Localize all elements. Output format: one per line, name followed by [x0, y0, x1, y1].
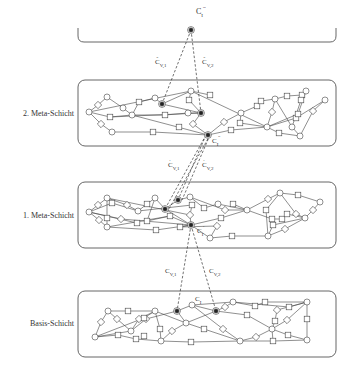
meta2-edge — [162, 104, 201, 113]
meta2-hub-node — [160, 102, 164, 106]
graph-node-diamond — [268, 108, 275, 115]
basis-hub-node — [175, 309, 179, 313]
link-label-basis-v2: CV,2 — [209, 267, 221, 278]
graph-node-square — [104, 215, 110, 221]
graph-node-square — [286, 304, 292, 310]
graph-node-square — [201, 326, 207, 332]
meta1-edge — [107, 227, 156, 230]
interlayer-link-basis — [177, 225, 191, 311]
graph-node-square — [167, 213, 173, 219]
graph-node-square — [186, 97, 192, 103]
basis-edge — [273, 340, 307, 341]
meta2-edge — [231, 127, 267, 130]
layer-frame-basis — [78, 291, 336, 357]
graph-node-circle — [207, 235, 213, 241]
graph-node-circle — [135, 208, 141, 214]
graph-node-square — [284, 93, 290, 99]
graph-node-square — [263, 207, 269, 213]
hub-label-basis: CI — [195, 295, 202, 305]
basis-edge — [186, 311, 216, 323]
graph-node-circle — [215, 201, 221, 207]
link-label-meta2-v1: CV,1'' — [155, 56, 167, 69]
meta1-hub-node — [163, 207, 167, 211]
hub-label-meta1: CI' — [197, 225, 204, 237]
layer-label-meta1: 1. Meta-Schicht — [23, 211, 75, 220]
graph-node-square — [304, 316, 310, 322]
meta2-hub-node — [206, 133, 210, 137]
graph-node-circle — [230, 299, 236, 305]
graph-node-circle — [129, 112, 135, 118]
graph-node-diamond — [264, 195, 271, 202]
graph-node-circle — [152, 195, 158, 201]
graph-node-square — [229, 233, 235, 239]
graph-node-square — [107, 114, 113, 120]
graph-node-circle — [304, 337, 310, 343]
graph-node-circle — [128, 328, 134, 334]
layer-label-meta2: 2. Meta-Schicht — [23, 109, 75, 118]
graph-node-circle — [244, 207, 250, 213]
basis-hub-node — [214, 309, 218, 313]
graph-node-circle — [185, 110, 191, 116]
graph-node-square — [207, 92, 213, 98]
graph-node-circle — [277, 190, 283, 196]
graph-node-square — [141, 315, 147, 321]
graph-node-diamond — [221, 303, 228, 310]
meta1-edge — [266, 210, 268, 236]
meta1-edge — [210, 236, 232, 238]
graph-node-circle — [264, 124, 270, 130]
graph-node-square — [141, 333, 147, 339]
graph-node-diamond — [97, 318, 104, 325]
link-label-meta1-v2: CV,2' — [202, 159, 214, 172]
graph-node-square — [218, 215, 224, 221]
layer-label-basis: Basis-Schicht — [30, 319, 75, 328]
meta1-hub-node — [189, 223, 193, 227]
graph-node-square — [153, 227, 159, 233]
graph-node-square — [144, 218, 150, 224]
graph-node-circle — [120, 105, 126, 111]
graph-node-circle — [237, 338, 243, 344]
graph-node-square — [272, 318, 278, 324]
top-node-label: CI''' — [196, 6, 206, 18]
meta2-edge — [153, 132, 208, 135]
graph-node-diamond — [186, 211, 193, 218]
link-label-meta2-v2: CV,2'' — [202, 56, 214, 69]
graph-node-circle — [302, 215, 308, 221]
graph-node-circle — [303, 88, 309, 94]
graph-node-circle — [152, 95, 158, 101]
graph-node-square — [270, 338, 276, 344]
graph-node-circle — [322, 97, 328, 103]
graph-node-circle — [86, 109, 92, 115]
graph-node-square — [201, 205, 207, 211]
graph-node-circle — [269, 326, 275, 332]
top-layer-frame — [78, 28, 336, 42]
graph-node-diamond — [189, 120, 196, 127]
graph-node-square — [136, 99, 142, 105]
graph-node-circle — [183, 320, 189, 326]
graph-node-circle — [272, 96, 278, 102]
link-label-meta1-v1: CV,1' — [168, 159, 180, 172]
basis-edge — [233, 302, 255, 306]
graph-node-square — [298, 97, 304, 103]
link-label-basis-v1: CV,1 — [165, 267, 177, 278]
graph-node-circle — [317, 199, 323, 205]
meta1-edge — [285, 218, 305, 229]
graph-node-circle — [238, 110, 244, 116]
graph-node-square — [177, 224, 183, 230]
graph-node-circle — [92, 334, 98, 340]
graph-node-square — [109, 200, 115, 206]
meta2-edge — [300, 111, 313, 136]
basis-edge — [216, 311, 247, 315]
graph-node-circle — [289, 124, 295, 130]
graph-node-square — [270, 222, 276, 228]
graph-node-diamond — [221, 206, 228, 213]
hub-label-meta2: CI'' — [212, 135, 220, 147]
graph-node-square — [284, 211, 290, 217]
top-hub-node — [189, 28, 193, 32]
graph-node-diamond — [219, 325, 226, 332]
graph-node-diamond — [213, 222, 220, 229]
graph-node-circle — [86, 209, 92, 215]
graph-node-diamond — [281, 225, 288, 232]
graph-node-circle — [265, 233, 271, 239]
graph-node-circle — [104, 224, 110, 230]
graph-node-square — [244, 312, 250, 318]
